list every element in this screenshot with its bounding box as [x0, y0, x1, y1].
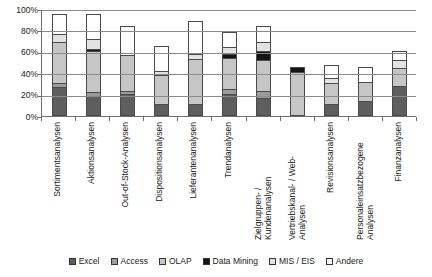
stacked-bar[interactable]: [188, 21, 203, 116]
legend-item[interactable]: Andere: [326, 257, 363, 266]
x-axis-tick: [41, 117, 42, 121]
y-axis-tick: [38, 74, 42, 75]
stacked-bar-chart: 0%20%40%60%80%100% SortimentsanalysenAkt…: [0, 0, 432, 277]
gridline: [42, 31, 416, 32]
y-axis-tick-label: 100%: [16, 6, 38, 15]
x-axis-category-cell: Out-of-Stock-Analysen: [109, 122, 143, 244]
gridline: [42, 53, 416, 54]
plot-area: [41, 10, 416, 117]
x-axis-tick: [280, 117, 281, 121]
y-axis-tick: [38, 31, 42, 32]
x-axis-tick: [416, 117, 417, 121]
legend-label: Access: [121, 257, 148, 266]
legend-item[interactable]: Access: [111, 257, 148, 266]
x-axis-category-label: Finanzanalysen: [394, 122, 404, 182]
bar-segment: [52, 34, 67, 43]
x-axis-tick: [246, 117, 247, 121]
x-axis-category-cell: Trendanalysen: [211, 122, 245, 244]
bar-segment: [256, 98, 271, 116]
legend-swatch-icon: [203, 258, 210, 265]
x-axis-tick: [314, 117, 315, 121]
x-axis-category-cell: Aktionsanalysen: [75, 122, 109, 244]
legend-swatch-icon: [326, 258, 333, 265]
bar-segment: [86, 51, 101, 93]
y-axis-tick: [38, 10, 42, 11]
bar-group: [42, 10, 416, 116]
gridline: [42, 96, 416, 97]
y-axis-tick-label: 20%: [21, 91, 38, 100]
gridline: [42, 74, 416, 75]
legend-item[interactable]: OLAP: [159, 257, 192, 266]
y-axis-tick: [38, 96, 42, 97]
x-axis-category-label: Personaleinsatzbezogene Analysen: [355, 122, 374, 240]
bar-segment: [222, 32, 237, 47]
x-axis-tick: [109, 117, 110, 121]
bar-slot: [178, 10, 212, 116]
x-axis-category-cell: Finanzanalysen: [382, 122, 416, 244]
legend-swatch-icon: [159, 258, 166, 265]
bar-segment: [324, 65, 339, 78]
x-axis-tick: [382, 117, 383, 121]
bar-slot: [246, 10, 280, 116]
bar-segment: [154, 104, 169, 116]
bar-slot: [144, 10, 178, 116]
x-axis-category-cell: Vertriebskanal- / Web-Analysen: [280, 122, 314, 244]
x-axis-tick: [75, 117, 76, 121]
bar-slot: [42, 10, 76, 116]
stacked-bar[interactable]: [154, 46, 169, 116]
x-axis-category-label: Zielgruppen- / Kundenanalysen: [253, 122, 272, 240]
x-axis-tick: [177, 117, 178, 121]
bar-segment: [358, 101, 373, 116]
y-axis-tick-label: 60%: [21, 48, 38, 57]
bar-segment: [324, 83, 339, 104]
x-axis-category-labels: SortimentsanalysenAktionsanalysenOut-of-…: [41, 122, 416, 244]
bar-segment: [256, 42, 271, 51]
x-axis-category-cell: Dispositionsanalysen: [143, 122, 177, 244]
x-axis-category-label: Out-of-Stock-Analysen: [121, 122, 131, 208]
legend-item[interactable]: MIS / EIS: [269, 257, 315, 266]
bar-segment: [52, 42, 67, 83]
x-axis-category-label: Vertriebskanal- / Web-Analysen: [287, 122, 306, 240]
stacked-bar[interactable]: [86, 14, 101, 116]
x-axis-category-cell: Lieferantenanalysen: [177, 122, 211, 244]
bar-segment: [392, 68, 407, 86]
bar-slot: [348, 10, 382, 116]
legend-label: MIS / EIS: [279, 257, 315, 266]
x-axis-category-label: Sortimentsanalysen: [53, 122, 63, 197]
bar-segment: [324, 104, 339, 116]
legend-swatch-icon: [269, 258, 276, 265]
bar-segment: [188, 59, 203, 104]
legend-item[interactable]: Data Mining: [203, 257, 258, 266]
x-axis-category-cell: Sortimentsanalysen: [41, 122, 75, 244]
stacked-bar[interactable]: [120, 26, 135, 116]
stacked-bar[interactable]: [256, 26, 271, 116]
bar-slot: [314, 10, 348, 116]
x-axis-category-label: Revisionsanalysen: [326, 122, 336, 193]
x-axis-tick: [348, 117, 349, 121]
x-axis-category-cell: Personaleinsatzbezogene Analysen: [348, 122, 382, 244]
stacked-bar[interactable]: [52, 14, 67, 116]
x-axis-category-cell: Zielgruppen- / Kundenanalysen: [246, 122, 280, 244]
chart-legend: ExcelAccessOLAPData MiningMIS / EISAnder…: [0, 252, 432, 270]
bar-slot: [76, 10, 110, 116]
bar-slot: [110, 10, 144, 116]
x-axis-category-label: Aktionsanalysen: [87, 122, 97, 184]
legend-item[interactable]: Excel: [69, 257, 100, 266]
y-axis-tick-label: 0%: [26, 113, 38, 122]
bar-segment: [86, 14, 101, 39]
x-axis-tick: [143, 117, 144, 121]
bar-segment: [392, 86, 407, 116]
bar-segment: [154, 46, 169, 71]
y-axis-tick: [38, 53, 42, 54]
x-axis-category-label: Lieferantenanalysen: [190, 122, 200, 199]
stacked-bar[interactable]: [324, 65, 339, 116]
stacked-bar[interactable]: [392, 51, 407, 116]
legend-label: Excel: [79, 257, 100, 266]
legend-label: OLAP: [169, 257, 192, 266]
y-axis-tick-label: 40%: [21, 70, 38, 79]
legend-swatch-icon: [111, 258, 118, 265]
y-axis-tick-label: 80%: [21, 27, 38, 36]
bar-segment: [86, 96, 101, 116]
bar-segment: [52, 87, 67, 116]
bar-segment: [154, 75, 169, 104]
